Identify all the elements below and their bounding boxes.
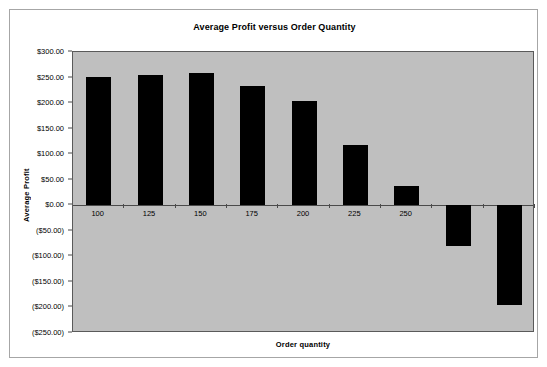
y-tick-label: ($200.00) <box>32 302 64 311</box>
bar <box>86 77 111 205</box>
bar <box>394 186 419 205</box>
bar <box>343 145 368 205</box>
bar <box>138 75 163 205</box>
bar <box>240 86 265 206</box>
y-axis: $300.00$250.00$200.00$150.00$100.00$50.0… <box>10 51 72 332</box>
x-axis-title: Order quantity <box>72 340 534 349</box>
y-tick-label: $50.00 <box>41 174 64 183</box>
y-tick-label: ($250.00) <box>32 328 64 337</box>
y-tick-label: $0.00 <box>45 200 64 209</box>
plot-area <box>72 51 534 332</box>
chart-frame: Average Profit versus Order Quantity Ave… <box>9 9 538 358</box>
chart-screenshot: Average Profit versus Order Quantity Ave… <box>0 0 547 367</box>
y-tick-label: $300.00 <box>37 47 64 56</box>
bar <box>446 205 471 246</box>
y-tick-label: ($100.00) <box>32 251 64 260</box>
y-tick-label: $150.00 <box>37 123 64 132</box>
chart-title: Average Profit versus Order Quantity <box>10 22 539 32</box>
bar <box>189 73 214 205</box>
y-tick-label: $250.00 <box>37 72 64 81</box>
x-tick-mark <box>534 204 535 208</box>
bar <box>497 205 522 305</box>
bars-layer <box>73 52 533 331</box>
bar <box>292 101 317 205</box>
y-tick-label: $100.00 <box>37 149 64 158</box>
y-tick-label: ($150.00) <box>32 276 64 285</box>
y-tick-label: $200.00 <box>37 98 64 107</box>
y-tick-label: ($50.00) <box>36 225 64 234</box>
